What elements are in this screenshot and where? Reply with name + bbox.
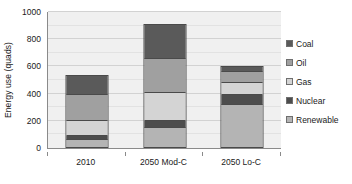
legend-swatch-icon	[286, 97, 293, 104]
y-axis-tick-label: 400	[27, 89, 41, 98]
bar-segment-renewable[interactable]	[66, 140, 107, 147]
y-axis-tick-label: 1000	[22, 8, 41, 17]
bars-layer	[48, 12, 281, 148]
legend-swatch-icon	[286, 40, 293, 47]
x-axis-tick-labels: 20102050 Mod-C2050 Lo-C	[47, 152, 280, 166]
y-axis-title: Energy use (quads)	[0, 0, 16, 160]
x-axis-tick-label: 2050 Lo-C	[221, 157, 261, 168]
bar-segment-oil[interactable]	[66, 95, 107, 121]
stacked-bar-chart: Energy use (quads) 02004006008001000 201…	[0, 0, 352, 184]
bar-stack	[221, 66, 264, 148]
legend-item-gas[interactable]: Gas	[286, 72, 352, 91]
bar-segment-coal[interactable]	[66, 76, 107, 95]
bar-segment-gas[interactable]	[222, 83, 263, 95]
y-axis-tick-label: 200	[27, 116, 41, 125]
bar-segment-coal[interactable]	[144, 25, 185, 59]
y-axis-tick-label: 0	[36, 144, 41, 153]
x-axis-tick-mark	[125, 152, 126, 156]
x-axis-tick-mark	[47, 152, 48, 156]
y-axis-title-label: Energy use (quads)	[3, 42, 13, 118]
legend-item-label: Oil	[296, 58, 306, 68]
legend-swatch-icon	[286, 116, 293, 123]
x-axis-tick-label: 2050 Mod-C	[140, 157, 187, 168]
x-axis-tick-mark	[280, 152, 281, 156]
bar-segment-gas[interactable]	[66, 121, 107, 136]
bar-group[interactable]	[143, 24, 186, 148]
legend-item-label: Coal	[296, 39, 313, 49]
bar-stack	[65, 75, 108, 148]
bar-segment-oil[interactable]	[222, 72, 263, 83]
x-axis-tick-mark	[202, 152, 203, 156]
legend-item-coal[interactable]: Coal	[286, 34, 352, 53]
y-axis-tick-label: 600	[27, 62, 41, 71]
bar-segment-nuclear[interactable]	[144, 121, 185, 128]
chart-legend: CoalOilGasNuclearRenewable	[286, 34, 352, 129]
legend-item-label: Renewable	[296, 115, 339, 125]
bar-segment-renewable[interactable]	[144, 128, 185, 147]
bar-group[interactable]	[221, 66, 264, 148]
x-axis-tick-label: 2010	[76, 157, 95, 168]
legend-item-label: Nuclear	[296, 96, 325, 106]
plot-area	[47, 12, 281, 149]
legend-item-label: Gas	[296, 77, 312, 87]
legend-swatch-icon	[286, 78, 293, 85]
legend-swatch-icon	[286, 59, 293, 66]
legend-item-oil[interactable]: Oil	[286, 53, 352, 72]
legend-item-nuclear[interactable]: Nuclear	[286, 91, 352, 110]
bar-stack	[143, 24, 186, 148]
y-axis-tick-label: 800	[27, 35, 41, 44]
bar-segment-oil[interactable]	[144, 59, 185, 93]
bar-segment-renewable[interactable]	[222, 105, 263, 147]
bar-segment-gas[interactable]	[144, 93, 185, 121]
bar-group[interactable]	[65, 75, 108, 148]
bar-segment-nuclear[interactable]	[222, 95, 263, 104]
legend-item-renewable[interactable]: Renewable	[286, 110, 352, 129]
y-axis-tick-labels: 02004006008001000	[16, 12, 44, 148]
